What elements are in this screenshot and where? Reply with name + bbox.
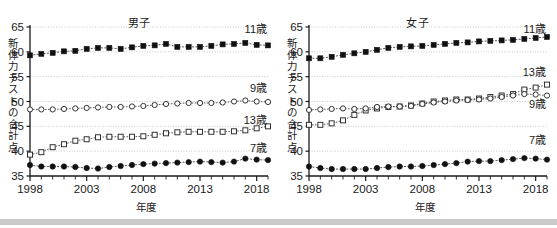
data-point-marker [118, 163, 123, 168]
y-tick-label: 60 [11, 46, 24, 58]
data-point-marker [340, 118, 345, 123]
data-point-marker [27, 162, 32, 167]
data-point-marker [306, 164, 311, 169]
data-point-marker [487, 96, 492, 101]
data-point-marker [28, 53, 33, 58]
data-point-marker [265, 99, 270, 104]
plot-area-boys: 354045505560651998200320082013201811歳9歳1… [0, 0, 278, 218]
data-point-marker [408, 103, 413, 108]
data-point-marker [96, 135, 101, 140]
data-point-marker [340, 166, 345, 171]
data-point-marker [175, 101, 180, 106]
data-point-marker [408, 44, 413, 49]
data-point-marker [164, 131, 169, 136]
data-point-marker [243, 156, 248, 161]
data-point-marker [254, 42, 259, 47]
data-point-marker [329, 121, 334, 126]
y-tick-label: 50 [290, 96, 303, 108]
data-point-marker [254, 99, 259, 104]
data-point-marker [209, 43, 214, 48]
data-point-marker [499, 94, 504, 99]
data-point-marker [152, 102, 157, 107]
data-point-marker [464, 159, 469, 164]
data-point-marker [62, 142, 67, 147]
y-tick-label: 40 [11, 145, 24, 157]
series-label-age7: 7歳 [528, 134, 545, 146]
data-point-marker [129, 162, 134, 167]
data-point-marker [186, 159, 191, 164]
chart-panel-boys: 男子 新体力テストの合計点 35404550556065199820032008… [0, 0, 279, 218]
x-tick-label: 2013 [466, 183, 492, 195]
data-point-marker [532, 156, 537, 161]
data-point-marker [232, 129, 237, 134]
data-point-marker [374, 47, 379, 52]
data-point-marker [209, 159, 214, 164]
y-tick-label: 35 [11, 170, 24, 182]
data-point-marker [231, 159, 236, 164]
x-axis-label-boys-wrap: 年度 [0, 199, 279, 214]
data-point-marker [533, 85, 538, 90]
data-point-marker [130, 134, 135, 139]
y-tick-label: 50 [11, 96, 24, 108]
data-point-marker [175, 130, 180, 135]
series-label-age13: 13歳 [244, 114, 267, 126]
data-point-marker [431, 100, 436, 105]
data-point-marker [73, 138, 78, 143]
data-point-marker [118, 104, 123, 109]
x-tick-label: 1998 [296, 183, 322, 195]
x-tick-label: 2018 [522, 183, 548, 195]
data-point-marker [118, 46, 123, 51]
data-point-marker [317, 165, 322, 170]
y-tick-label: 45 [290, 120, 303, 132]
data-point-marker [186, 44, 191, 49]
data-point-marker [465, 40, 470, 45]
data-point-marker [430, 162, 435, 167]
x-axis-label-boys: 年度 [136, 199, 156, 214]
data-point-marker [232, 41, 237, 46]
data-point-marker [107, 45, 112, 50]
data-point-marker [453, 160, 458, 165]
data-point-marker [95, 105, 100, 110]
data-point-marker [220, 129, 225, 134]
chart-panel-girls: 女子 新体力テストの合計点 35404550556065199820032008… [279, 0, 557, 218]
x-tick-label: 2018 [244, 183, 270, 195]
series-label-age7: 7歳 [250, 142, 267, 154]
data-point-marker [107, 164, 112, 169]
data-point-marker [186, 100, 191, 105]
data-point-marker [442, 161, 447, 166]
data-point-marker [351, 112, 356, 117]
data-point-marker [442, 41, 447, 46]
data-point-marker [328, 166, 333, 171]
data-point-marker [243, 98, 248, 103]
data-point-marker [476, 39, 481, 44]
data-point-marker [39, 164, 44, 169]
y-tick-label: 55 [290, 71, 303, 83]
y-tick-label: 60 [290, 46, 303, 58]
data-point-marker [340, 106, 345, 111]
plot-area-girls: 354045505560651998200320082013201811歳13歳… [279, 0, 557, 218]
y-tick-label: 55 [11, 71, 24, 83]
footer-bar-spacer [0, 225, 557, 228]
x-axis-label-girls-wrap: 年度 [279, 199, 557, 214]
data-point-marker [453, 40, 458, 45]
data-point-marker [96, 45, 101, 50]
data-point-marker [107, 134, 112, 139]
data-point-marker [243, 40, 248, 45]
data-point-marker [50, 164, 55, 169]
data-point-marker [521, 155, 526, 160]
data-point-marker [141, 43, 146, 48]
data-point-marker [39, 150, 44, 155]
data-point-marker [73, 164, 78, 169]
data-point-marker [197, 100, 202, 105]
data-point-marker [397, 44, 402, 49]
data-point-marker [163, 160, 168, 165]
data-point-marker [231, 99, 236, 104]
data-point-marker [510, 37, 515, 42]
x-tick-label: 1998 [17, 183, 43, 195]
data-point-marker [397, 104, 402, 109]
data-point-marker [50, 107, 55, 112]
data-point-marker [265, 157, 270, 162]
data-point-marker [118, 134, 123, 139]
data-point-marker [152, 43, 157, 48]
series-label-age13: 13歳 [522, 66, 545, 78]
